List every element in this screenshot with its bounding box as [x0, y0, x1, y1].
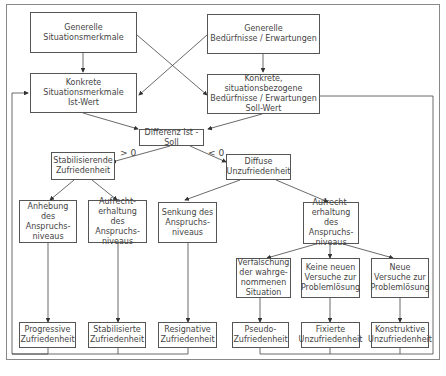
node-fixed: Fixierte Unzufriedenheit [301, 322, 360, 348]
node-concrete-needs: Konkrete, situationsbezogene Bedürfnisse… [207, 74, 320, 114]
node-raise-level: Anhebung des Anspruchs- niveaus [19, 200, 77, 243]
node-stabilized: Stabilisierte Zufriedenheit [88, 322, 146, 348]
node-resignative: Resignative Zufriedenheit [158, 322, 217, 348]
node-diffuse: Diffuse Unzufriedenheit [226, 154, 291, 180]
edge-label-greater: > 0 [120, 148, 136, 158]
node-distortion: Verfälschung der wahrge- nommenen Situat… [236, 258, 291, 298]
node-maintain-level-1: Aufrecht- erhaltung des Anspruchs- nivea… [88, 200, 147, 243]
node-progressive: Progressive Zufriedenheit [19, 322, 76, 348]
node-pseudo: Pseudo- Zufriedenheit [232, 322, 289, 348]
node-lower-level: Senkung des Anspruchs- niveaus [158, 202, 217, 243]
node-constructive: Konstruktive Unzufriedenheit [371, 322, 429, 348]
node-maintain-level-2: Aufrecht- erhaltung des Anspruchs- nivea… [303, 202, 359, 244]
node-general-needs: Generelle Bedürfnisse / Erwartungen [207, 14, 320, 54]
edge-label-less: < 0 [208, 148, 224, 158]
connector-lines [0, 0, 446, 376]
node-new-attempts: Neue Versuche zur Problemlösung [371, 258, 429, 298]
node-concrete-situation: Konkrete Situationsmerkmale Ist-Wert [30, 73, 137, 113]
node-difference: Differenz Ist - Soll [139, 129, 204, 146]
node-no-new-attempts: Keine neuen Versuche zur Problemlösung [301, 258, 360, 298]
node-general-situation: Generelle Situationsmerkmale [30, 12, 137, 53]
node-stabilizing: Stabilisierende Zufriedenheit [51, 152, 115, 180]
